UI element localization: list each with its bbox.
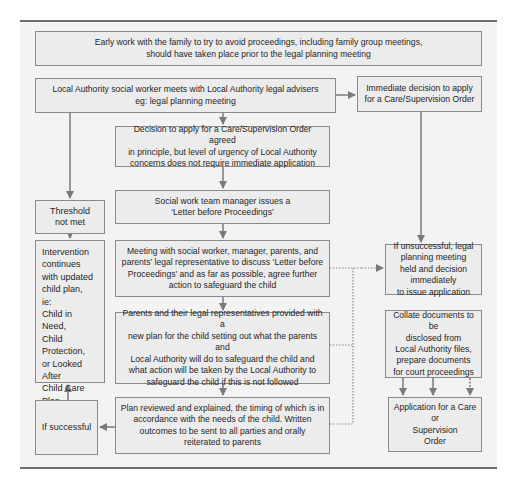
threshold-not-met-box: Threshold not met <box>35 200 105 234</box>
meeting-box: Meeting with social worker, manager, par… <box>115 240 330 297</box>
application-box: Application for a Care or Supervision Or… <box>388 397 482 452</box>
early-work-box: Early work with the family to try to avo… <box>35 31 482 66</box>
if-unsuccessful-box: If unsuccessful, legal planning meeting … <box>385 244 482 295</box>
intervention-continues-box: Intervention continues with updated chil… <box>35 240 105 383</box>
la-meets-legal-advisers-box: Local Authority social worker meets with… <box>35 78 336 113</box>
collate-documents-box: Collate documents to be disclosed from L… <box>385 310 482 378</box>
plan-reviewed-box: Plan reviewed and explained, the timing … <box>115 397 330 454</box>
letter-before-proceedings-box: Social work team manager issues a ‘Lette… <box>115 190 330 224</box>
if-successful-box: If successful <box>35 400 98 455</box>
decision-in-principle-box: Decision to apply for a Care/Supervision… <box>115 126 330 167</box>
new-plan-box: Parents and their legal representatives … <box>115 312 330 384</box>
immediate-decision-box: Immediate decision to apply for a Care/S… <box>357 76 482 112</box>
